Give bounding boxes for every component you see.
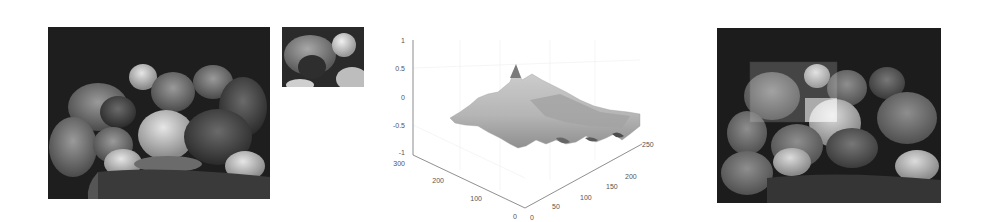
template-patch [282, 27, 364, 87]
svg-text:200: 200 [432, 177, 444, 184]
svg-text:100: 100 [580, 194, 592, 201]
svg-text:150: 150 [606, 183, 618, 190]
template-image-panel [282, 27, 364, 87]
svg-text:-0.5: -0.5 [393, 122, 405, 129]
svg-text:100: 100 [470, 195, 482, 202]
x-axis-ticks: 0 50 100 150 200 250 [530, 141, 654, 221]
svg-text:250: 250 [642, 141, 654, 148]
match-result-panel [717, 28, 941, 203]
match-result-image [717, 28, 941, 203]
svg-text:300: 300 [393, 160, 405, 167]
svg-text:-1: -1 [399, 149, 405, 156]
svg-text:0: 0 [513, 213, 517, 220]
y-axis-ticks: 300 200 100 0 [393, 160, 517, 220]
original-image-panel [48, 27, 270, 199]
correlation-surface-plot: 1 0.5 0 -0.5 -1 300 200 100 0 0 50 100 1… [360, 30, 660, 222]
svg-text:200: 200 [625, 173, 637, 180]
svg-text:0: 0 [401, 94, 405, 101]
svg-text:0: 0 [530, 214, 534, 221]
svg-text:1: 1 [401, 37, 405, 44]
svg-text:50: 50 [552, 203, 560, 210]
surface-axes: 1 0.5 0 -0.5 -1 300 200 100 0 0 50 100 1… [360, 30, 660, 222]
svg-text:0.5: 0.5 [395, 65, 405, 72]
z-axis-ticks: 1 0.5 0 -0.5 -1 [393, 37, 405, 156]
peppers-image [48, 27, 270, 199]
